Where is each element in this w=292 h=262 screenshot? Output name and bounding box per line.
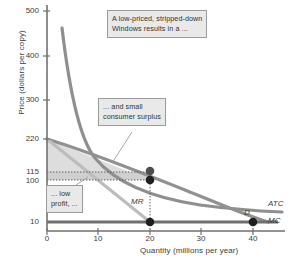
point-demand-at-q40: [249, 218, 258, 227]
y-axis-label: Price (dollars per copy): [17, 13, 26, 133]
x-tick-label-40: 40: [241, 234, 265, 243]
x-tick-label-0: 0: [35, 234, 59, 243]
curve-label-d: D: [244, 208, 250, 217]
y-tick-label-10: 10: [13, 217, 39, 226]
y-tick-label-300: 300: [13, 95, 39, 104]
point-mr-equals-mc: [146, 218, 155, 227]
callout-headline: A low-priced, stripped-down Windows resu…: [107, 10, 207, 38]
y-tick-label-400: 400: [13, 51, 39, 60]
surplus-leader-line: [112, 132, 132, 163]
economics-monopoly-chart: Price (dollars per copy) Quantity (milli…: [0, 0, 292, 262]
chart-plot-area: [0, 0, 292, 262]
y-tick-label-115: 115: [13, 167, 39, 176]
x-tick-label-10: 10: [86, 234, 110, 243]
y-tick-label-100: 100: [13, 176, 39, 185]
curve-label-mc: MC: [268, 216, 280, 225]
point-atc-at-q20: [146, 167, 155, 176]
y-tick-label-500: 500: [13, 6, 39, 15]
callout-low-profit: ... low profit, ...: [46, 185, 83, 213]
y-tick-label-220: 220: [13, 134, 39, 143]
point-price-at-q20: [146, 176, 155, 185]
curve-label-mr: MR: [131, 197, 143, 206]
x-tick-label-20: 20: [138, 234, 162, 243]
x-tick-label-30: 30: [189, 234, 213, 243]
callout-consumer-surplus: ... and small consumer surplus: [98, 98, 166, 126]
curve-label-atc: ATC: [268, 199, 283, 208]
x-axis-label: Quantity (millions per year): [140, 246, 238, 255]
